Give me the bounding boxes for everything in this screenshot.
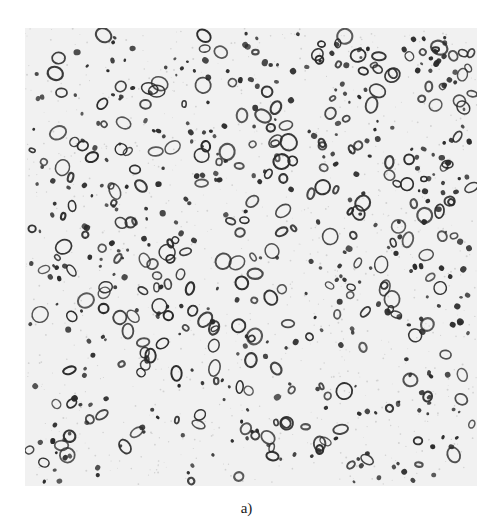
particle-field xyxy=(25,28,477,486)
figure-caption: a) xyxy=(0,500,493,517)
micrograph-image xyxy=(25,28,477,486)
cropped-header-text xyxy=(0,0,493,6)
